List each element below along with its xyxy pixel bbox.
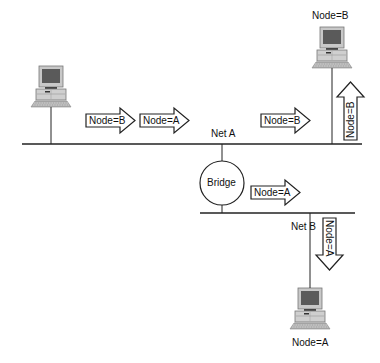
host-b-computer-icon	[312, 27, 352, 68]
host-a-label: Node=A	[292, 337, 328, 348]
network-bridge-diagram	[0, 0, 380, 363]
host-b-label: Node=B	[312, 10, 348, 21]
frame-5-label: Node=A	[254, 187, 290, 198]
host-a-computer-icon	[290, 288, 330, 329]
bridge-label: Bridge	[207, 177, 236, 188]
frame-4-label: Node=B	[345, 102, 356, 138]
net-b-label: Net B	[291, 221, 316, 232]
frame-3-label: Node=B	[264, 115, 300, 126]
net-a-label: Net A	[211, 128, 235, 139]
frame-6-label: Node=A	[324, 220, 335, 256]
left-host-computer-icon	[31, 66, 71, 107]
frame-2-label: Node=A	[143, 115, 179, 126]
frame-1-label: Node=B	[89, 115, 125, 126]
